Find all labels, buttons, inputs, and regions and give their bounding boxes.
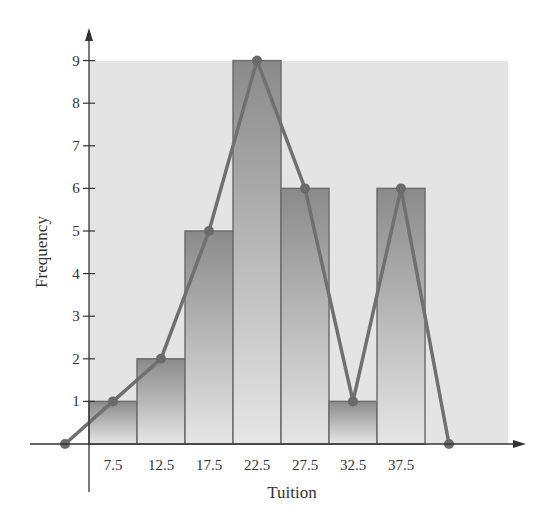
x-ticks: 7.512.517.522.527.532.537.5 bbox=[104, 457, 415, 473]
histogram-bar bbox=[185, 231, 233, 444]
histogram-bar bbox=[329, 401, 377, 444]
polygon-point bbox=[300, 183, 310, 193]
y-tick-label: 2 bbox=[72, 351, 80, 367]
y-tick-label: 3 bbox=[72, 308, 80, 324]
y-axis-title: Frequency bbox=[32, 216, 51, 288]
polygon-point bbox=[348, 396, 358, 406]
x-tick-label: 37.5 bbox=[388, 457, 414, 473]
x-tick-label: 12.5 bbox=[148, 457, 174, 473]
polygon-point bbox=[252, 56, 262, 66]
polygon-point bbox=[204, 226, 214, 236]
y-tick-label: 9 bbox=[72, 53, 80, 69]
x-axis-title: Tuition bbox=[267, 483, 317, 502]
y-tick-label: 7 bbox=[72, 138, 80, 154]
histogram-bar bbox=[377, 188, 425, 444]
x-tick-label: 17.5 bbox=[196, 457, 222, 473]
y-tick-label: 8 bbox=[72, 95, 80, 111]
histogram-bar bbox=[89, 401, 137, 444]
x-tick-label: 32.5 bbox=[340, 457, 366, 473]
x-tick-label: 7.5 bbox=[104, 457, 123, 473]
polygon-point bbox=[396, 183, 406, 193]
y-tick-label: 6 bbox=[72, 180, 80, 196]
y-axis-arrow-icon bbox=[85, 28, 93, 41]
chart-canvas: 123456789 7.512.517.522.527.532.537.5 Tu… bbox=[0, 0, 554, 523]
y-tick-label: 1 bbox=[72, 393, 80, 409]
histogram-bar bbox=[281, 188, 329, 444]
polygon-point bbox=[108, 396, 118, 406]
x-axis-arrow-icon bbox=[513, 440, 526, 448]
y-tick-label: 5 bbox=[72, 223, 80, 239]
x-tick-label: 27.5 bbox=[292, 457, 318, 473]
y-tick-label: 4 bbox=[72, 266, 80, 282]
polygon-point bbox=[156, 354, 166, 364]
x-tick-label: 22.5 bbox=[244, 457, 270, 473]
frequency-histogram-chart: 123456789 7.512.517.522.527.532.537.5 Tu… bbox=[0, 0, 554, 523]
